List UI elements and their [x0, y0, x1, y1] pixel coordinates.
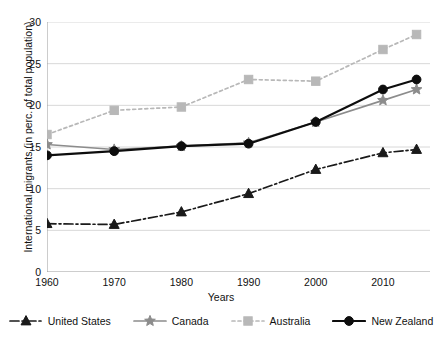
data-point — [177, 142, 186, 151]
data-point — [110, 147, 119, 156]
x-tick-label: 1960 — [17, 276, 77, 288]
marker-triangle — [412, 144, 422, 153]
data-point — [378, 95, 389, 105]
x-tick-label: 1970 — [84, 276, 144, 288]
data-point — [47, 139, 52, 149]
y-tick-label: 5 — [1, 224, 41, 236]
legend-item-australia[interactable]: Australia — [231, 314, 311, 328]
data-point — [411, 84, 422, 94]
data-point — [412, 144, 422, 153]
marker-square — [412, 30, 420, 38]
data-point — [47, 151, 51, 160]
legend-label: New Zealand — [371, 315, 433, 327]
data-point — [311, 118, 320, 127]
series-australia — [47, 30, 421, 138]
y-tick-label: 30 — [1, 16, 41, 28]
series-line — [47, 80, 417, 156]
legend-swatch-star-icon — [133, 314, 167, 328]
legend-label: Canada — [172, 315, 209, 327]
legend-marker — [243, 317, 251, 325]
marker-circle — [110, 147, 119, 156]
y-tick-label: 20 — [1, 99, 41, 111]
data-point — [110, 106, 118, 114]
marker-circle — [177, 142, 186, 151]
marker-square — [177, 103, 185, 111]
marker-circle — [47, 151, 51, 160]
y-tick-label: 10 — [1, 183, 41, 195]
legend-label: Australia — [270, 315, 311, 327]
chart-legend: United StatesCanadaAustraliaNew Zealand — [0, 310, 442, 332]
data-point — [412, 75, 421, 84]
y-tick-label: 15 — [1, 141, 41, 153]
data-point — [244, 75, 252, 83]
plot-area — [47, 22, 430, 272]
data-point — [379, 45, 387, 53]
marker-square — [379, 45, 387, 53]
y-tick-label: 25 — [1, 58, 41, 70]
x-tick-label: 1990 — [219, 276, 279, 288]
series-line — [47, 35, 417, 135]
marker-star — [411, 84, 422, 94]
legend-item-new-zealand[interactable]: New Zealand — [332, 314, 433, 328]
series-line — [47, 150, 417, 225]
series-line — [47, 90, 417, 150]
marker-square — [110, 106, 118, 114]
x-axis-title: Years — [0, 291, 442, 303]
legend-item-united-states[interactable]: United States — [9, 314, 111, 328]
data-point — [177, 103, 185, 111]
marker-square — [47, 130, 51, 138]
marker-star — [47, 139, 52, 149]
legend-label: United States — [48, 315, 111, 327]
legend-marker — [345, 317, 354, 326]
marker-circle — [412, 75, 421, 84]
x-tick-label: 1980 — [151, 276, 211, 288]
marker-star — [144, 315, 155, 325]
marker-circle — [311, 118, 320, 127]
data-point — [312, 77, 320, 85]
marker-circle — [345, 317, 354, 326]
marker-circle — [244, 139, 253, 148]
legend-swatch-triangle-icon — [9, 314, 43, 328]
legend-marker — [144, 315, 155, 325]
data-point — [244, 139, 253, 148]
data-point — [412, 30, 420, 38]
plot-svg — [47, 22, 430, 272]
y-axis-tick-labels: 051015202530 — [0, 22, 41, 272]
x-tick-label: 2000 — [286, 276, 346, 288]
data-point — [47, 130, 51, 138]
marker-square — [243, 317, 251, 325]
x-tick-label: 2010 — [353, 276, 413, 288]
legend-item-canada[interactable]: Canada — [133, 314, 209, 328]
series-united-states — [47, 144, 422, 228]
marker-circle — [379, 85, 388, 94]
marker-square — [312, 77, 320, 85]
marker-square — [244, 75, 252, 83]
marker-star — [378, 95, 389, 105]
legend-swatch-square-icon — [231, 314, 265, 328]
x-axis-tick-labels: 196019701980199020002010 — [0, 276, 442, 292]
data-point — [379, 85, 388, 94]
legend-swatch-circle-icon — [332, 314, 366, 328]
line-chart: International migrants (in perc. of tota… — [0, 0, 442, 338]
